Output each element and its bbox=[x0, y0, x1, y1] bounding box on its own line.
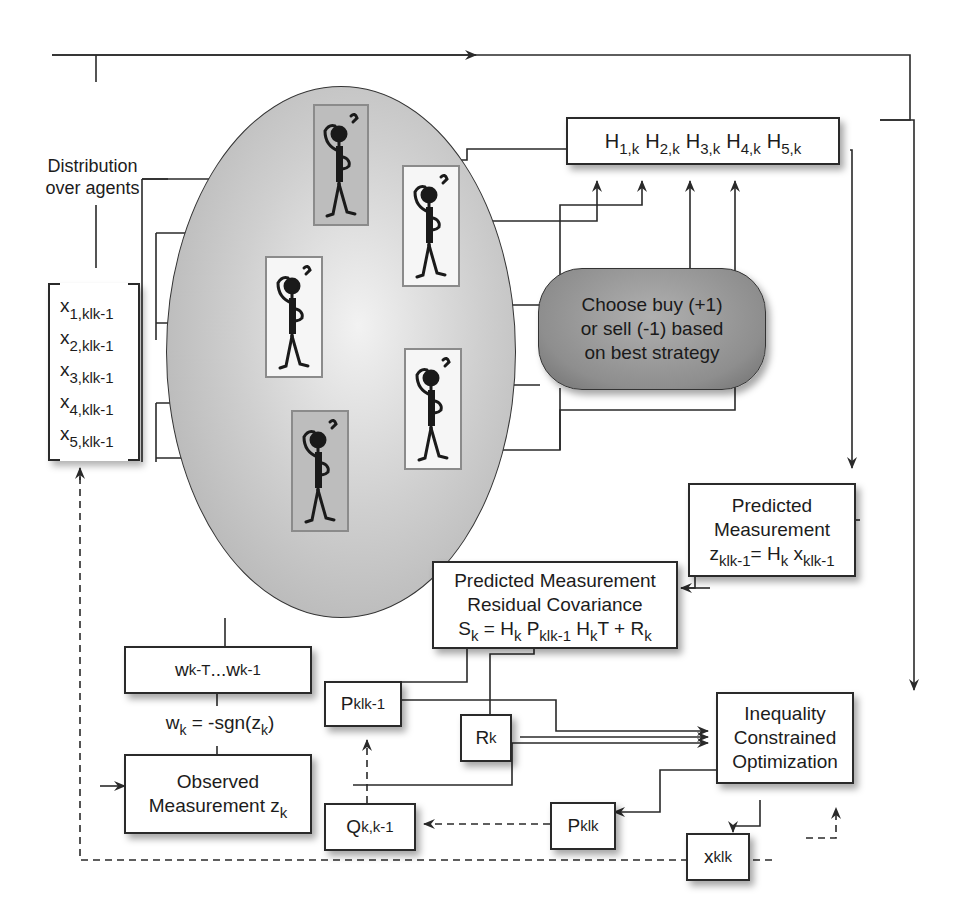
strategy-line-3: on best strategy bbox=[581, 341, 724, 365]
h-item-5: H5,k bbox=[767, 129, 801, 153]
thinking-person-icon bbox=[404, 167, 458, 285]
opt-line3: Optimization bbox=[732, 750, 838, 774]
distribution-label-line2: over agents bbox=[10, 177, 175, 199]
p-post-box: Pklk bbox=[550, 802, 616, 850]
observed-measurement-box: Observed Measurement zk bbox=[124, 754, 312, 834]
opt-line1: Inequality bbox=[744, 702, 825, 726]
thinking-person-icon bbox=[315, 106, 367, 224]
state-row-2: x2,klk-1 bbox=[60, 327, 114, 354]
agent-figure-3 bbox=[265, 256, 323, 378]
strategy-line-1: Choose buy (+1) bbox=[581, 293, 724, 317]
agent-figure-2 bbox=[402, 165, 460, 287]
strategy-line-2: or sell (-1) based bbox=[581, 317, 724, 341]
pm-line1: Predicted bbox=[732, 494, 812, 518]
thinking-person-icon bbox=[267, 258, 321, 376]
inequality-constrained-optimization-box: Inequality Constrained Optimization bbox=[716, 692, 854, 784]
pm-line2: Measurement bbox=[714, 518, 830, 542]
thinking-person-icon bbox=[406, 350, 460, 468]
agent-figure-1 bbox=[313, 104, 369, 226]
state-row-3: x3,klk-1 bbox=[60, 359, 114, 386]
choose-strategy-node: Choose buy (+1) or sell (-1) based on be… bbox=[538, 268, 766, 390]
rc-line1: Predicted Measurement bbox=[454, 569, 656, 593]
distribution-label-line1: Distribution bbox=[10, 155, 175, 177]
agent-figure-4 bbox=[404, 348, 462, 470]
h-matrix-box: H1,k H2,k H3,k H4,k H5,k bbox=[566, 117, 840, 165]
weight-rule-label: wk = -sgn(zk) bbox=[140, 712, 300, 734]
h-item-3: H3,k bbox=[686, 129, 720, 153]
x-post-box: xklk bbox=[686, 833, 750, 881]
rc-line2: Residual Covariance bbox=[467, 593, 642, 617]
state-row-5: x5,klk-1 bbox=[60, 423, 114, 450]
rc-equation: Sk = Hk Pklk-1 HkT + Rk bbox=[458, 617, 651, 641]
weights-history-box: wk-T ... wk-1 bbox=[124, 646, 312, 694]
om-line2: Measurement zk bbox=[149, 794, 287, 818]
state-row-4: x4,klk-1 bbox=[60, 391, 114, 418]
residual-covariance-box: Predicted Measurement Residual Covarianc… bbox=[432, 561, 678, 649]
h-item-4: H4,k bbox=[726, 129, 760, 153]
opt-line2: Constrained bbox=[734, 726, 836, 750]
h-item-2: H2,k bbox=[645, 129, 679, 153]
r-box: Rk bbox=[460, 714, 512, 762]
state-vector-bracket: x1,klk-1 x2,klk-1 x3,klk-1 x4,klk-1 x5,k… bbox=[48, 283, 140, 461]
h-item-1: H1,k bbox=[605, 129, 639, 153]
distribution-over-agents-label: Distribution over agents bbox=[10, 155, 175, 199]
predicted-measurement-box: Predicted Measurement zklk-1= Hk xklk-1 bbox=[688, 483, 856, 577]
state-row-1: x1,klk-1 bbox=[60, 295, 114, 322]
thinking-person-icon bbox=[293, 412, 347, 530]
q-box: Qk,k-1 bbox=[324, 803, 416, 851]
p-prior-box: Pklk-1 bbox=[324, 681, 402, 727]
agent-figure-5 bbox=[291, 410, 349, 532]
pm-equation: zklk-1= Hk xklk-1 bbox=[709, 542, 834, 566]
om-line1: Observed bbox=[177, 770, 259, 794]
